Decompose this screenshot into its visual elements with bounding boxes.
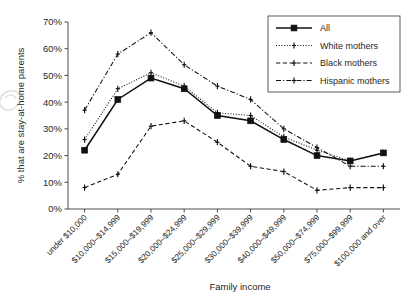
series-black-mothers [83, 118, 386, 194]
data-point [281, 137, 287, 143]
y-tick-label: 40% [43, 97, 63, 108]
legend-sample-marker [291, 25, 297, 31]
data-point [115, 97, 121, 103]
data-point [82, 147, 88, 153]
y-tick-label: 0% [48, 203, 62, 214]
legend-label: Black mothers [320, 58, 378, 68]
y-tick-label: 10% [43, 177, 63, 188]
data-point [181, 86, 187, 92]
y-tick-label: 50% [43, 70, 63, 81]
data-point [381, 150, 387, 156]
x-axis-title: Family income [209, 281, 270, 292]
data-point [215, 113, 221, 119]
y-tick-label: 60% [43, 43, 63, 54]
chart-container: 0%10%20%30%40%50%60%70%% that are stay-a… [0, 0, 413, 299]
line-chart: 0%10%20%30%40%50%60%70%% that are stay-a… [0, 0, 413, 299]
chart-legend: AllWhite mothersBlack mothersHispanic mo… [268, 16, 400, 92]
data-point [148, 75, 154, 81]
legend-label: White mothers [320, 41, 379, 51]
data-point [314, 153, 320, 159]
data-point [347, 158, 353, 164]
y-axis-title: % that are stay-at-home parents [15, 47, 26, 183]
y-tick-label: 20% [43, 150, 63, 161]
legend-label: All [320, 23, 330, 33]
y-tick-label: 30% [43, 123, 63, 134]
legend-label: Hispanic mothers [320, 76, 390, 86]
series-line [85, 121, 384, 190]
y-tick-label: 70% [43, 16, 63, 27]
data-point [248, 118, 254, 124]
